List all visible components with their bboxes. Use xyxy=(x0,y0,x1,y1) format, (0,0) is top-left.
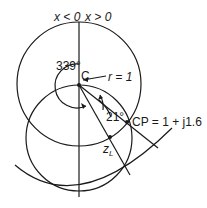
label-center-c: C xyxy=(81,70,90,82)
label-radius: r = 1 xyxy=(108,71,132,83)
label-x-positive: x > 0 xyxy=(85,11,111,23)
label-zl: zL xyxy=(103,143,113,158)
smith-chart-diagram: x < 0 x > 0 339° C r = 1 21° CP = 1 + j1… xyxy=(0,0,207,208)
label-cp: CP = 1 + j1.6 xyxy=(132,116,202,128)
label-x-negative: x < 0 xyxy=(54,11,80,23)
label-angle-21: 21° xyxy=(106,111,124,123)
label-zl-sub: L xyxy=(109,149,113,158)
line-c-zl xyxy=(79,85,130,175)
bottom-arc xyxy=(15,128,172,186)
center-point xyxy=(77,83,81,87)
zl-point xyxy=(108,135,112,139)
label-angle-339: 339° xyxy=(56,60,81,72)
arrow-339-icon xyxy=(81,103,86,109)
diagram-graphics xyxy=(0,0,207,208)
cp-point xyxy=(125,120,129,124)
